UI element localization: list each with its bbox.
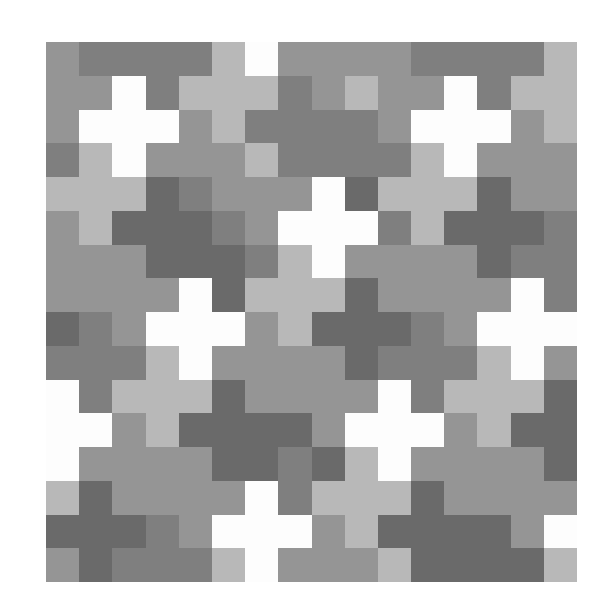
- mosaic-tile: [112, 312, 145, 346]
- mosaic-tile: [245, 380, 278, 414]
- mosaic-tile: [245, 211, 278, 245]
- mosaic-tile: [278, 110, 311, 144]
- mosaic-tile: [278, 346, 311, 380]
- mosaic-tile: [278, 143, 311, 177]
- mosaic-tile: [179, 447, 212, 481]
- mosaic-tile: [112, 278, 145, 312]
- mosaic-tile: [411, 177, 444, 211]
- mosaic-tile: [112, 143, 145, 177]
- mosaic-tile: [345, 211, 378, 245]
- mosaic-tile: [544, 515, 577, 549]
- mosaic-tile: [345, 278, 378, 312]
- mosaic-tile: [312, 346, 345, 380]
- mosaic-tile: [312, 447, 345, 481]
- mosaic-tile: [212, 346, 245, 380]
- mosaic-tile: [345, 312, 378, 346]
- mosaic-tile: [345, 245, 378, 279]
- mosaic-tile: [444, 110, 477, 144]
- mosaic-tile: [444, 76, 477, 110]
- mosaic-tile: [245, 346, 278, 380]
- mosaic-tile: [312, 413, 345, 447]
- mosaic-tile: [444, 346, 477, 380]
- mosaic-tile: [46, 177, 79, 211]
- mosaic-tile: [511, 481, 544, 515]
- mosaic-tile: [477, 548, 510, 582]
- mosaic-tile: [378, 245, 411, 279]
- mosaic-tile: [378, 548, 411, 582]
- mosaic-tile: [146, 76, 179, 110]
- mosaic-tile: [477, 211, 510, 245]
- mosaic-tile: [411, 312, 444, 346]
- mosaic-tile: [146, 346, 179, 380]
- mosaic-tile: [378, 110, 411, 144]
- mosaic-tile: [46, 312, 79, 346]
- mosaic-tile: [46, 42, 79, 76]
- mosaic-tile: [245, 548, 278, 582]
- mosaic-tile: [444, 380, 477, 414]
- mosaic-tile: [544, 312, 577, 346]
- mosaic-tile: [46, 548, 79, 582]
- mosaic-tile: [477, 346, 510, 380]
- mosaic-tile: [345, 110, 378, 144]
- mosaic-tile: [179, 346, 212, 380]
- mosaic-tile: [444, 278, 477, 312]
- mosaic-tile: [312, 515, 345, 549]
- mosaic-tile: [511, 515, 544, 549]
- mosaic-tile: [245, 177, 278, 211]
- mosaic-tile: [46, 413, 79, 447]
- mosaic-tile: [79, 413, 112, 447]
- mosaic-tile: [179, 211, 212, 245]
- mosaic-tile: [112, 515, 145, 549]
- mosaic-tile: [179, 42, 212, 76]
- mosaic-tile: [378, 380, 411, 414]
- mosaic-tile: [444, 413, 477, 447]
- mosaic-tile: [112, 380, 145, 414]
- mosaic-tile: [278, 447, 311, 481]
- mosaic-tile: [179, 481, 212, 515]
- mosaic-tile: [179, 110, 212, 144]
- mosaic-tile: [212, 211, 245, 245]
- mosaic-tile: [477, 143, 510, 177]
- mosaic-tile: [46, 245, 79, 279]
- mosaic-tile: [146, 211, 179, 245]
- mosaic-tile: [378, 413, 411, 447]
- mosaic-tile: [345, 548, 378, 582]
- mosaic-tile: [112, 413, 145, 447]
- mosaic-tile: [345, 42, 378, 76]
- mosaic-tile: [79, 515, 112, 549]
- mosaic-tile: [411, 245, 444, 279]
- mosaic-tile: [46, 278, 79, 312]
- mosaic-tile: [212, 76, 245, 110]
- mosaic-tile: [444, 177, 477, 211]
- mosaic-tile: [411, 143, 444, 177]
- mosaic-tile: [46, 481, 79, 515]
- mosaic-tile: [46, 211, 79, 245]
- mosaic-tile: [411, 278, 444, 312]
- mosaic-tile: [411, 380, 444, 414]
- mosaic-tile: [146, 312, 179, 346]
- mosaic-tile: [312, 211, 345, 245]
- mosaic-tile: [378, 278, 411, 312]
- mosaic-tile: [444, 312, 477, 346]
- mosaic-tile: [378, 515, 411, 549]
- mosaic-tile: [245, 413, 278, 447]
- mosaic-tile: [179, 76, 212, 110]
- mosaic-tile: [544, 346, 577, 380]
- mosaic-tile: [411, 211, 444, 245]
- mosaic-tile: [278, 211, 311, 245]
- mosaic-tile: [312, 548, 345, 582]
- mosaic-tile: [411, 76, 444, 110]
- mosaic-tile: [544, 245, 577, 279]
- mosaic-tile: [46, 447, 79, 481]
- mosaic-tile: [179, 245, 212, 279]
- mosaic-tile: [278, 515, 311, 549]
- mosaic-tile: [46, 380, 79, 414]
- mosaic-tile: [312, 110, 345, 144]
- mosaic-tile: [278, 481, 311, 515]
- mosaic-tile: [212, 42, 245, 76]
- mosaic-tile: [112, 245, 145, 279]
- mosaic-tile: [79, 481, 112, 515]
- mosaic-tile: [444, 211, 477, 245]
- mosaic-tile: [477, 76, 510, 110]
- mosaic-tile: [477, 278, 510, 312]
